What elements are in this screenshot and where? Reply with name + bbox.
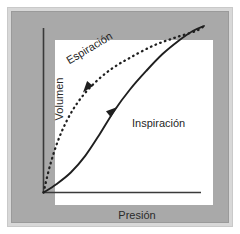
curve-label-inspiracion: Inspiración — [132, 117, 185, 129]
figure-container: Volumen Presión Espiración Inspiración — [0, 0, 240, 234]
y-axis-title: Volumen — [50, 64, 68, 134]
x-axis-title: Presión — [102, 209, 172, 221]
panel-background: Volumen Presión Espiración Inspiración — [11, 11, 229, 223]
panel-outer-frame: Volumen Presión Espiración Inspiración — [7, 7, 233, 227]
